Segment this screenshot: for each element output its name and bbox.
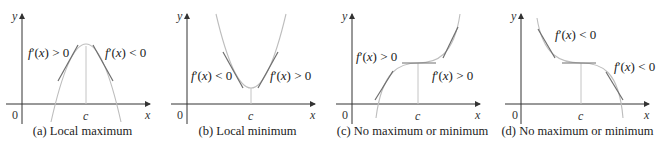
caption: (b) Local minimum — [165, 124, 330, 139]
caption: (d) No maximum or minimum — [495, 124, 660, 139]
derivative-left-label: f′(x) > 0 — [28, 46, 69, 59]
panel-no-extremum-increasing: y x 0 c f′(x) > 0 f′(x) > 0 (c) No maxim… — [330, 0, 495, 160]
derivative-right-label: f′(x) > 0 — [432, 69, 473, 82]
tangent-right — [443, 27, 458, 58]
c-label: c — [248, 109, 253, 124]
caption: (a) Local maximum — [0, 124, 165, 139]
c-label: c — [83, 109, 88, 124]
derivative-right-label: f′(x) < 0 — [614, 60, 655, 73]
derivative-right-label: f′(x) < 0 — [105, 46, 146, 59]
c-label: c — [578, 109, 583, 124]
tangent-right — [606, 72, 623, 100]
panel-local-minimum: y x 0 c f′(x) < 0 f′(x) > 0 (b) Local mi… — [165, 0, 330, 160]
y-axis-label: y — [511, 9, 516, 24]
x-axis-label: x — [475, 108, 480, 123]
derivative-left-label: f′(x) < 0 — [191, 69, 232, 82]
origin-label: 0 — [512, 108, 518, 123]
derivative-left-label: f′(x) > 0 — [356, 50, 397, 63]
y-axis-label: y — [342, 9, 347, 24]
x-axis-label: x — [310, 108, 315, 123]
derivative-right-label: f′(x) > 0 — [270, 69, 311, 82]
y-axis-label: y — [12, 9, 17, 24]
y-axis-label: y — [177, 9, 182, 24]
tangent-left — [375, 71, 393, 100]
origin-label: 0 — [177, 108, 183, 123]
x-axis-label: x — [145, 108, 150, 123]
x-axis-label: x — [644, 108, 649, 123]
c-label: c — [415, 109, 420, 124]
panel-no-extremum-decreasing: y x 0 c f′(x) < 0 f′(x) < 0 (d) No maxim… — [495, 0, 660, 160]
tangent-left — [538, 29, 555, 58]
panel-local-maximum: y x 0 c f′(x) > 0 f′(x) < 0 (a) Local ma… — [0, 0, 165, 160]
derivative-left-label: f′(x) < 0 — [555, 28, 596, 41]
origin-label: 0 — [12, 108, 18, 123]
caption: (c) No maximum or minimum — [330, 124, 495, 139]
origin-label: 0 — [342, 108, 348, 123]
